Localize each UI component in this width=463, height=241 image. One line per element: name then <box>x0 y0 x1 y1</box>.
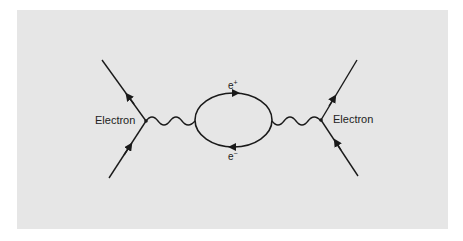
feynman-diagram <box>0 0 463 241</box>
left-outgoing-electron-line <box>102 60 146 121</box>
electron-positron-loop <box>195 93 272 147</box>
electron-loop-label: e− <box>228 150 238 162</box>
right-photon-line <box>272 117 321 125</box>
right-electron-label: Electron <box>333 113 373 125</box>
left-electron-label: Electron <box>95 114 135 126</box>
right-vertex <box>319 118 323 122</box>
positron-label: e+ <box>228 79 238 91</box>
left-photon-line <box>146 117 195 125</box>
right-outgoing-electron-line <box>321 60 357 120</box>
right-incoming-electron-line <box>321 120 358 176</box>
left-incoming-electron-line <box>109 121 146 178</box>
